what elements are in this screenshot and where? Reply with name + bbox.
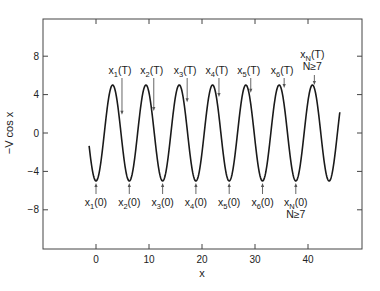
- arrow-head-icon: [249, 89, 252, 93]
- arrow-head-icon: [186, 98, 189, 102]
- label-final-3: x3(T): [174, 64, 197, 79]
- y-axis-title: −V cos x: [3, 111, 15, 154]
- arrow-head-icon: [261, 183, 264, 187]
- data-curve: [89, 85, 340, 181]
- label-final-2: x2(T): [140, 64, 163, 79]
- arrow-head-icon: [283, 84, 286, 88]
- arrow-head-icon: [313, 81, 316, 85]
- arrow-head-icon: [217, 93, 220, 97]
- label-initial-6: x6(0): [251, 196, 273, 211]
- y-tick-label: 0: [33, 128, 39, 139]
- label-initial-3: x3(0): [151, 196, 173, 211]
- label-initial-2: x2(0): [118, 196, 140, 211]
- y-tick-label: −8: [28, 204, 40, 215]
- label-final-1: x1(T): [109, 64, 132, 79]
- x-axis-title: x: [199, 267, 205, 279]
- arrow-head-icon: [152, 107, 155, 111]
- annotations-initial-positions: x1(0)x2(0)x3(0)x4(0)x5(0)x6(0)xN(0)N≥7: [85, 183, 308, 220]
- chart: 010203040 840−4−8 x1(T)x2(T)x3(T)x4(T)x5…: [0, 0, 380, 291]
- y-tick-label: 4: [33, 89, 39, 100]
- arrow-head-icon: [128, 183, 131, 187]
- label-initial-5: x5(0): [218, 196, 240, 211]
- x-tick-label: 20: [196, 254, 208, 265]
- label-initial-4: x4(0): [185, 196, 207, 211]
- arrow-head-icon: [161, 183, 164, 187]
- label-final-6: x6(T): [271, 64, 294, 79]
- arrow-head-icon: [94, 183, 97, 187]
- label-final-4: x4(T): [206, 64, 229, 79]
- label-final-5: x5(T): [237, 64, 260, 79]
- arrow-head-icon: [194, 183, 197, 187]
- label-initial-7-condition: N≥7: [286, 208, 305, 220]
- y-tick-label: −4: [28, 166, 40, 177]
- x-tick-label: 40: [302, 254, 314, 265]
- x-tick-label: 0: [93, 254, 99, 265]
- x-tick-label: 30: [249, 254, 261, 265]
- arrow-head-icon: [120, 111, 123, 115]
- arrow-head-icon: [294, 183, 297, 187]
- label-final-7-condition: N≥7: [303, 60, 322, 72]
- x-tick-label: 10: [143, 254, 155, 265]
- arrow-head-icon: [228, 183, 231, 187]
- y-tick-label: 8: [33, 51, 39, 62]
- label-initial-1: x1(0): [85, 196, 107, 211]
